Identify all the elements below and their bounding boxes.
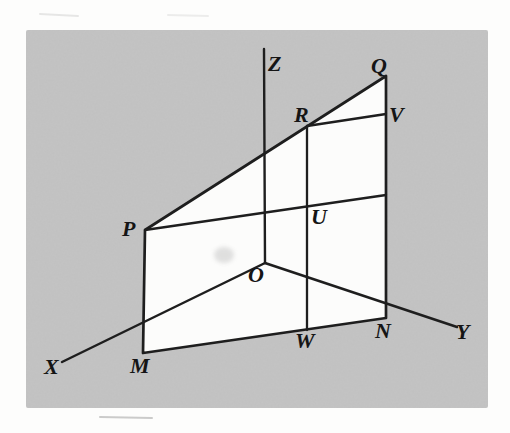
scan-artifact-dash (168, 15, 208, 16)
scanned-page: ZQRVPUOXMWNY (0, 0, 510, 433)
label-N: N (374, 318, 392, 343)
axis-z-line (264, 49, 265, 263)
geometry-figure: ZQRVPUOXMWNY (0, 0, 510, 433)
label-O: O (248, 262, 264, 287)
label-W: W (295, 328, 316, 353)
label-U: U (311, 204, 328, 229)
label-Z: Z (267, 51, 281, 76)
label-Q: Q (371, 53, 387, 78)
label-M: M (129, 353, 151, 378)
label-R: R (293, 102, 309, 127)
label-P: P (121, 216, 136, 241)
scan-artifact-dash (40, 14, 78, 16)
scan-smudge (214, 247, 234, 263)
label-V: V (389, 102, 406, 127)
label-X: X (43, 354, 60, 379)
scan-artifact-dash (100, 417, 152, 418)
